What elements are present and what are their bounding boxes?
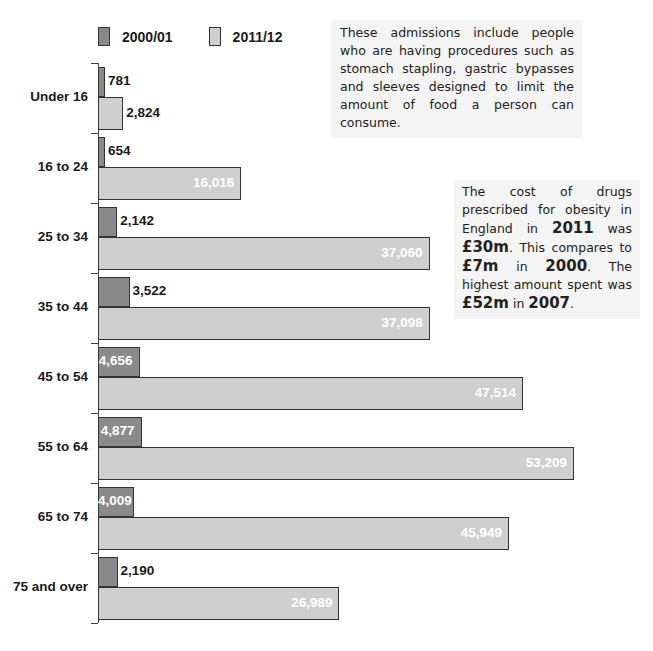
value-label-2011: 47,514 — [98, 385, 516, 400]
axis-tick — [91, 413, 98, 414]
note-drug-cost: The cost of drugs prescribed for obesity… — [454, 180, 640, 319]
value-label-2011: 37,098 — [98, 315, 423, 330]
value-label-2011: 37,060 — [98, 245, 423, 260]
category-label: 16 to 24 — [0, 159, 88, 174]
value-label-2000: 4,009 — [98, 493, 127, 508]
legend-swatch-2011 — [209, 27, 221, 46]
axis-tick — [91, 553, 98, 554]
bar-2000 — [98, 277, 130, 307]
bar-2000 — [98, 137, 105, 167]
value-label-2011: 45,949 — [98, 525, 502, 540]
bar-2011 — [98, 97, 123, 130]
category-label: Under 16 — [0, 89, 88, 104]
category-label: 65 to 74 — [0, 509, 88, 524]
legend-label: 2011/12 — [233, 29, 283, 45]
legend-label: 2000/01 — [122, 29, 173, 45]
value-label-2000: 3,522 — [133, 283, 167, 298]
value-label-2011: 2,824 — [126, 105, 160, 120]
value-label-2000: 4,656 — [98, 353, 133, 368]
value-label-2011: 16,016 — [98, 175, 234, 190]
axis-tick — [91, 343, 98, 344]
axis-tick — [91, 483, 98, 484]
category-label: 55 to 64 — [0, 439, 88, 454]
chart-legend: 2000/01 2011/12 — [98, 27, 282, 46]
value-label-2011: 53,209 — [98, 455, 567, 470]
legend-item-2000: 2000/01 — [98, 27, 173, 46]
value-label-2000: 2,142 — [120, 213, 154, 228]
value-label-2000: 2,190 — [121, 563, 155, 578]
value-label-2000: 781 — [108, 73, 131, 88]
legend-item-2011: 2011/12 — [209, 27, 283, 46]
note-surgery: These admissions include people who are … — [331, 20, 583, 138]
category-label: 35 to 44 — [0, 299, 88, 314]
axis-tick — [91, 623, 98, 624]
value-label-2011: 26,989 — [98, 595, 332, 610]
category-label: 25 to 34 — [0, 229, 88, 244]
value-label-2000: 654 — [108, 143, 131, 158]
axis-tick — [91, 203, 98, 204]
bar-2000 — [98, 207, 117, 237]
axis-tick — [91, 273, 98, 274]
category-label: 75 and over — [0, 579, 88, 594]
value-label-2000: 4,877 — [98, 423, 135, 438]
bar-2000 — [98, 557, 118, 587]
bar-2000 — [98, 67, 105, 97]
category-label: 45 to 54 — [0, 369, 88, 384]
legend-swatch-2000 — [98, 27, 110, 46]
axis-tick — [91, 63, 98, 64]
axis-tick — [91, 133, 98, 134]
